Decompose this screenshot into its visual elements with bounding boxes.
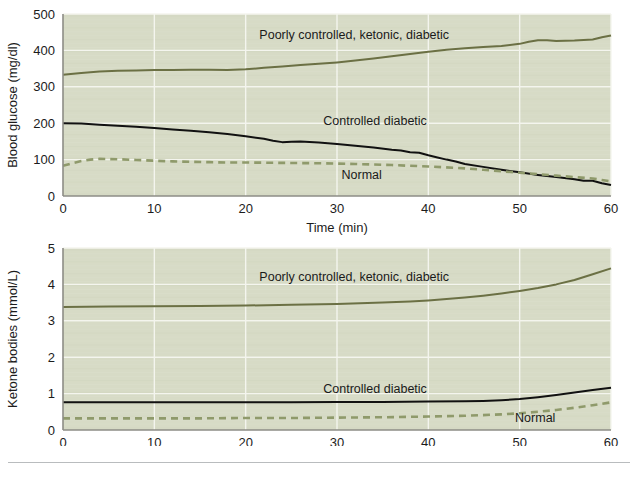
y-axis-title: Ketone bodies (mmol/L) bbox=[5, 270, 20, 408]
series-annotation-controlled: Controlled diabetic bbox=[323, 114, 427, 128]
x-tick-label: 20 bbox=[238, 435, 252, 446]
blood-glucose-chart-svg: 01002003004005000102030405060Time (min)B… bbox=[0, 0, 638, 235]
series-annotation-normal: Normal bbox=[515, 411, 555, 425]
x-tick-label: 30 bbox=[330, 435, 344, 446]
y-tick-label: 100 bbox=[33, 152, 55, 167]
figure-container: 01002003004005000102030405060Time (min)B… bbox=[0, 0, 638, 478]
series-annotation-poorly_controlled: Poorly controlled, ketonic, diabetic bbox=[259, 28, 449, 42]
x-tick-label: 10 bbox=[147, 435, 161, 446]
x-tick-label: 30 bbox=[330, 201, 344, 216]
y-tick-label: 1 bbox=[48, 386, 55, 401]
series-annotation-normal: Normal bbox=[342, 168, 382, 182]
series-annotation-poorly_controlled: Poorly controlled, ketonic, diabetic bbox=[259, 270, 449, 284]
y-tick-label: 0 bbox=[48, 423, 55, 438]
x-tick-label: 40 bbox=[421, 201, 435, 216]
x-tick-label: 20 bbox=[238, 201, 252, 216]
y-axis-title: Blood glucose (mg/dl) bbox=[5, 42, 20, 168]
x-axis-title: Time (min) bbox=[306, 220, 368, 235]
y-tick-label: 200 bbox=[33, 116, 55, 131]
y-tick-label: 4 bbox=[48, 277, 55, 292]
chart-panel-ketone-bodies: 0123450102030405060Time (min)Ketone bodi… bbox=[0, 236, 638, 446]
x-tick-label: 0 bbox=[59, 435, 66, 446]
x-tick-label: 50 bbox=[512, 435, 526, 446]
y-tick-label: 2 bbox=[48, 350, 55, 365]
x-tick-label: 60 bbox=[604, 201, 618, 216]
y-tick-label: 300 bbox=[33, 79, 55, 94]
x-tick-label: 0 bbox=[59, 201, 66, 216]
y-tick-label: 400 bbox=[33, 43, 55, 58]
chart-panel-blood-glucose: 01002003004005000102030405060Time (min)B… bbox=[0, 0, 638, 235]
y-tick-label: 3 bbox=[48, 313, 55, 328]
x-tick-label: 40 bbox=[421, 435, 435, 446]
y-tick-label: 5 bbox=[48, 241, 55, 256]
series-annotation-controlled: Controlled diabetic bbox=[323, 382, 427, 396]
x-tick-label: 50 bbox=[512, 201, 526, 216]
y-tick-label: 0 bbox=[48, 189, 55, 204]
ketone-bodies-chart-svg: 0123450102030405060Time (min)Ketone bodi… bbox=[0, 236, 638, 446]
footer-divider-rule bbox=[8, 462, 630, 463]
x-tick-label: 10 bbox=[147, 201, 161, 216]
x-tick-label: 60 bbox=[604, 435, 618, 446]
y-tick-label: 500 bbox=[33, 7, 55, 22]
